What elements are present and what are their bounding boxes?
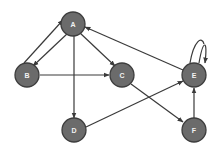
edge-c-f: [131, 84, 183, 122]
graph-canvas: A B C D E F: [0, 0, 222, 152]
node-c-label: C: [119, 72, 124, 79]
node-f[interactable]: F: [182, 118, 206, 142]
node-a[interactable]: A: [61, 12, 85, 36]
nodes: A B C D E F: [15, 12, 206, 142]
node-f-label: F: [192, 127, 197, 134]
edge-e-e-self-loop: [199, 45, 206, 63]
node-c[interactable]: C: [110, 63, 134, 87]
node-d-label: D: [71, 127, 76, 134]
edge-d-e: [86, 81, 183, 127]
edge-e-a: [85, 27, 183, 70]
edge-a-b: [33, 33, 68, 66]
node-a-label: A: [70, 21, 75, 28]
node-e[interactable]: E: [182, 63, 206, 87]
node-b[interactable]: B: [15, 63, 39, 87]
node-d[interactable]: D: [62, 118, 86, 142]
node-b-label: B: [24, 72, 29, 79]
node-e-label: E: [192, 72, 197, 79]
